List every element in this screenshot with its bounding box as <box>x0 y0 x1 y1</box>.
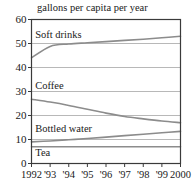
x-axis-labels: 1992'93'94'95'96'97'98'992000 <box>21 169 191 180</box>
y-axis-label: 0 <box>21 157 27 169</box>
line-chart: gallons per capita per year 010203040506… <box>0 0 193 183</box>
y-axis-label: 50 <box>16 37 28 49</box>
series-label-coffee: Coffee <box>35 80 64 91</box>
x-axis-label: '97 <box>118 169 130 180</box>
series-label-tea: Tea <box>35 147 50 158</box>
series-label-bottled-water: Bottled water <box>35 123 92 134</box>
x-axis-label: 1992 <box>21 169 42 180</box>
series-line-soft-drinks <box>32 36 181 58</box>
x-axis-label: '94 <box>63 169 76 180</box>
chart-container: gallons per capita per year 010203040506… <box>0 0 193 183</box>
x-axis-label: '95 <box>81 169 93 180</box>
x-axis-label: 2000 <box>170 169 191 180</box>
series-line-coffee <box>32 99 181 123</box>
chart-title: gallons per capita per year <box>37 2 148 13</box>
y-axis-label: 40 <box>16 61 28 73</box>
y-axis-label: 30 <box>16 85 28 97</box>
y-axis-labels: 0102030405060 <box>16 13 28 169</box>
x-axis-label: '98 <box>137 169 149 180</box>
y-axis-label: 20 <box>16 109 28 121</box>
y-axis-label: 10 <box>16 133 28 145</box>
x-axis-label: '99 <box>156 169 168 180</box>
series-label-soft-drinks: Soft drinks <box>35 29 81 40</box>
y-axis-label: 60 <box>16 13 28 25</box>
x-axis-label: '96 <box>100 169 112 180</box>
x-axis-label: '93 <box>44 169 56 180</box>
